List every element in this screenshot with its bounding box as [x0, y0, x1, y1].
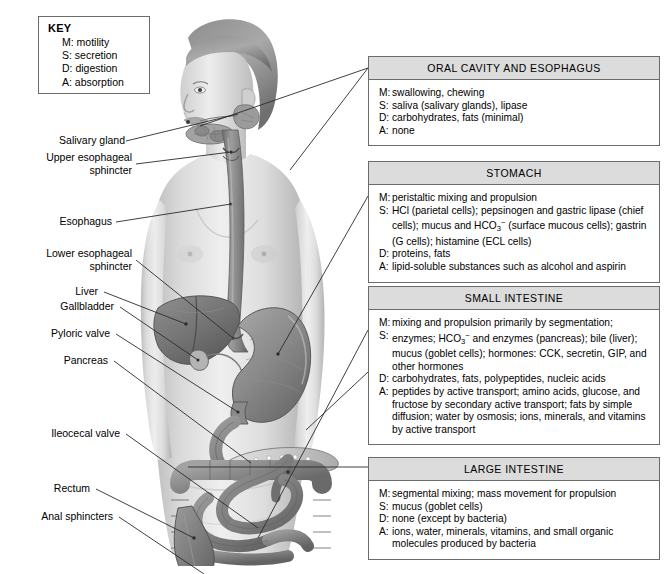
- row-tag: S:: [379, 100, 392, 113]
- row-tag: M:: [379, 87, 392, 100]
- head-illustration: [180, 19, 277, 138]
- row-text: enzymes; HCO3− and enzymes (pancreas); b…: [392, 330, 651, 374]
- row-text: saliva (salivary glands), lipase: [392, 100, 651, 113]
- row-text: segmental mixing; mass movement for prop…: [392, 488, 651, 501]
- row-tag: A:: [379, 386, 392, 399]
- label-pancreas: Pancreas: [40, 354, 108, 367]
- row-tag: D:: [379, 248, 392, 261]
- row-text: lipid-soluble substances such as alcohol…: [392, 261, 651, 274]
- row-text: swallowing, chewing: [392, 87, 651, 100]
- label-upper-esophageal-sphincter: Upper esophageal sphincter: [14, 151, 132, 176]
- row-tag: M:: [379, 488, 392, 501]
- key-line-absorption: A: absorption: [48, 76, 149, 89]
- label-gallbladder: Gallbladder: [34, 300, 114, 313]
- panel-row-secretion: S:HCl (parietal cells); pepsinogen and g…: [379, 205, 651, 249]
- row-tag: A:: [379, 261, 392, 274]
- panel-row-absorption: A:none: [379, 125, 651, 138]
- panel-body-small-intestine: M:mixing and propulsion primarily by seg…: [369, 310, 659, 444]
- row-text: mixing and propulsion primarily by segme…: [392, 317, 651, 330]
- panel-row-digestion: D:carbohydrates, fats (minimal): [379, 112, 651, 125]
- key-box: KEY M: motility S: secretion D: digestio…: [38, 16, 150, 94]
- row-tag: M:: [379, 317, 392, 330]
- row-tag: S:: [379, 501, 392, 514]
- panel-row-absorption: A:peptides by active transport; amino ac…: [379, 386, 651, 436]
- row-text: HCl (parietal cells); pepsinogen and gas…: [392, 205, 651, 249]
- row-tag: S:: [379, 205, 392, 218]
- key-line-motility: M: motility: [48, 36, 149, 49]
- row-text: none: [392, 125, 651, 138]
- label-esophagus: Esophagus: [30, 215, 112, 228]
- panel-large-intestine: LARGE INTESTINE M:segmental mixing; mass…: [368, 457, 660, 560]
- row-tag: D:: [379, 112, 392, 125]
- panel-small-intestine: SMALL INTESTINE M:mixing and propulsion …: [368, 286, 660, 445]
- row-text: carbohydrates, fats, polypeptides, nucle…: [392, 373, 651, 386]
- panel-row-secretion: S:saliva (salivary glands), lipase: [379, 100, 651, 113]
- key-line-secretion: S: secretion: [48, 49, 149, 62]
- row-tag: A:: [379, 526, 392, 539]
- panel-row-motility: M:peristaltic mixing and propulsion: [379, 192, 651, 205]
- panel-row-absorption: A:lipid-soluble substances such as alcoh…: [379, 261, 651, 274]
- panel-row-secretion: S:mucus (goblet cells): [379, 501, 651, 514]
- panel-row-digestion: D:proteins, fats: [379, 248, 651, 261]
- row-text: none (except by bacteria): [392, 513, 651, 526]
- digestive-system-figure: KEY M: motility S: secretion D: digestio…: [0, 0, 668, 574]
- panel-row-motility: M:segmental mixing; mass movement for pr…: [379, 488, 651, 501]
- panel-row-motility: M:swallowing, chewing: [379, 87, 651, 100]
- row-tag: D:: [379, 513, 392, 526]
- row-text: mucus (goblet cells): [392, 501, 651, 514]
- label-lower-esophageal-sphincter: Lower esophageal sphincter: [14, 247, 132, 272]
- row-text: peptides by active transport; amino acid…: [392, 386, 651, 436]
- panel-title-large-intestine: LARGE INTESTINE: [369, 458, 659, 481]
- row-text: peristaltic mixing and propulsion: [392, 192, 651, 205]
- panel-title-oral: ORAL CAVITY AND ESOPHAGUS: [369, 57, 659, 80]
- row-tag: M:: [379, 192, 392, 205]
- panel-title-stomach: STOMACH: [369, 162, 659, 185]
- row-text: ions, water, minerals, vitamins, and sma…: [392, 526, 651, 551]
- key-line-digestion: D: digestion: [48, 62, 149, 75]
- panel-row-secretion: S:enzymes; HCO3− and enzymes (pancreas);…: [379, 330, 651, 374]
- panel-body-oral: M:swallowing, chewing S:saliva (salivary…: [369, 80, 659, 145]
- panel-body-large-intestine: M:segmental mixing; mass movement for pr…: [369, 481, 659, 559]
- label-ileocecal-valve: Ileocecal valve: [30, 427, 120, 440]
- label-pyloric-valve: Pyloric valve: [30, 327, 110, 340]
- human-figure-illustration: [138, 8, 368, 566]
- panel-row-absorption: A:ions, water, minerals, vitamins, and s…: [379, 526, 651, 551]
- row-text: proteins, fats: [392, 248, 651, 261]
- label-salivary-gland: Salivary gland: [20, 134, 125, 147]
- row-text: carbohydrates, fats (minimal): [392, 112, 651, 125]
- panel-body-stomach: M:peristaltic mixing and propulsion S:HC…: [369, 185, 659, 282]
- panel-row-digestion: D:carbohydrates, fats, polypeptides, nuc…: [379, 373, 651, 386]
- row-tag: D:: [379, 373, 392, 386]
- label-rectum: Rectum: [40, 482, 90, 495]
- label-liver: Liver: [50, 285, 98, 298]
- row-tag: S:: [379, 330, 392, 343]
- panel-stomach: STOMACH M:peristaltic mixing and propuls…: [368, 161, 660, 283]
- panel-title-small-intestine: SMALL INTESTINE: [369, 287, 659, 310]
- panel-oral-cavity-and-esophagus: ORAL CAVITY AND ESOPHAGUS M:swallowing, …: [368, 56, 660, 146]
- panel-row-digestion: D:none (except by bacteria): [379, 513, 651, 526]
- row-tag: A:: [379, 125, 392, 138]
- key-title: KEY: [48, 22, 149, 34]
- panel-row-motility: M:mixing and propulsion primarily by seg…: [379, 317, 651, 330]
- label-anal-sphincters: Anal sphincters: [20, 510, 113, 523]
